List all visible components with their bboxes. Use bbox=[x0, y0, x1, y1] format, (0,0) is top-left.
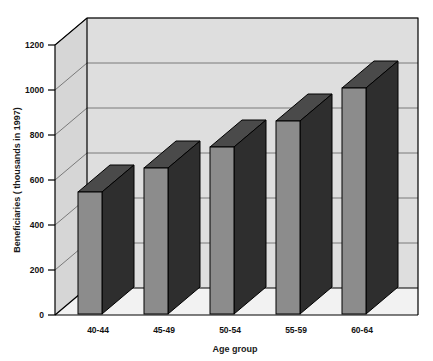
y-tick-label: 0 bbox=[39, 310, 44, 320]
y-tick-labels: 0 200 400 600 800 1000 1200 bbox=[25, 40, 44, 320]
y-tick-label: 800 bbox=[30, 130, 44, 140]
bar-50-54 bbox=[210, 120, 266, 314]
bar-60-64 bbox=[342, 61, 398, 314]
y-tick-label: 200 bbox=[30, 265, 44, 275]
y-tick-label: 400 bbox=[30, 220, 44, 230]
chart-canvas: 0 200 400 600 800 1000 1200 Beneficiarie… bbox=[0, 0, 433, 361]
bar-chart: 0 200 400 600 800 1000 1200 Beneficiarie… bbox=[0, 0, 433, 361]
x-tick-label: 45-49 bbox=[153, 325, 175, 335]
x-tick-label: 60-64 bbox=[351, 325, 373, 335]
x-tick-label: 55-59 bbox=[285, 325, 307, 335]
x-tick-label: 50-54 bbox=[219, 325, 241, 335]
x-tick-label: 40-44 bbox=[87, 325, 109, 335]
y-axis-ticks bbox=[48, 45, 55, 315]
y-tick-label: 1200 bbox=[25, 40, 44, 50]
y-tick-label: 1000 bbox=[25, 85, 44, 95]
x-axis-title: Age group bbox=[213, 344, 258, 354]
y-axis-title: Beneficiaries ( thousands in 1997) bbox=[12, 107, 22, 253]
bar-45-49 bbox=[144, 141, 200, 314]
x-tick-labels: 40-44 45-49 50-54 55-59 60-64 bbox=[87, 325, 373, 335]
bar-40-44 bbox=[78, 165, 134, 314]
y-tick-label: 600 bbox=[30, 175, 44, 185]
bar-55-59 bbox=[276, 94, 332, 314]
